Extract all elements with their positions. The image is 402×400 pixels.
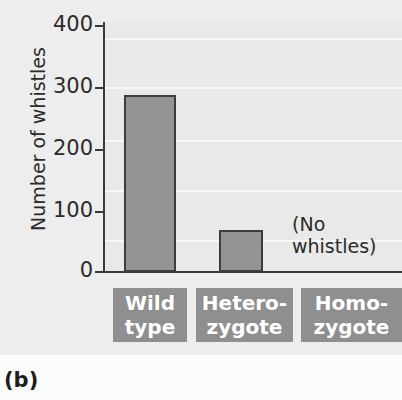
figure-panel-b: 400 300 200 100 0 Number of whistles (No… (0, 0, 402, 400)
y-axis-tick-label: 0 (0, 260, 93, 281)
category-label-wild-type: Wild type (113, 288, 187, 342)
no-whistles-annotation: (No whistles) (292, 214, 377, 258)
y-axis-title: Number of whistles (27, 19, 49, 259)
y-axis-line (103, 22, 105, 272)
y-axis-tick (95, 149, 104, 151)
y-axis-tick (95, 211, 104, 213)
y-axis-tick (95, 25, 104, 27)
category-label-homozygote: Homo- zygote (301, 288, 402, 342)
gridline (104, 38, 402, 40)
bar-heterozygote (219, 230, 263, 272)
gridline (104, 87, 402, 89)
category-label-heterozygote: Hetero- zygote (196, 288, 293, 342)
figure-caption: (b) (4, 368, 38, 392)
y-axis-tick (95, 87, 104, 89)
bar-wild-type (124, 95, 176, 272)
